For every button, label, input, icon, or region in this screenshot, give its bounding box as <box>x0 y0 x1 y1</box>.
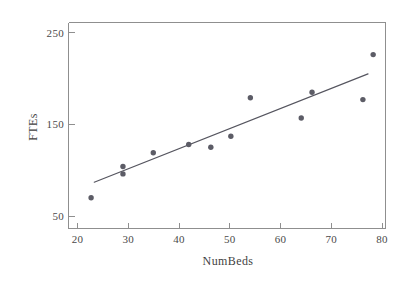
x-tick-label-20: 20 <box>72 233 84 245</box>
data-point <box>228 134 233 139</box>
data-point <box>370 52 375 57</box>
data-point <box>248 95 253 100</box>
data-point <box>208 145 213 150</box>
y-axis-ticks <box>69 33 75 216</box>
data-point <box>120 171 125 176</box>
x-tick-label-50: 50 <box>224 233 236 245</box>
x-tick-label-70: 70 <box>325 233 337 245</box>
y-axis-label: FTEs <box>26 113 41 141</box>
x-tick-label-60: 60 <box>275 233 287 245</box>
y-tick-label-50: 50 <box>42 210 64 222</box>
data-point <box>88 195 93 200</box>
axis-frame <box>69 23 386 229</box>
x-tick-label-80: 80 <box>376 233 388 245</box>
x-axis-ticks <box>78 223 383 229</box>
fit-line <box>94 74 368 182</box>
plot-canvas <box>0 0 412 288</box>
x-axis-label: NumBeds <box>203 254 254 269</box>
scatter-plot-figure: 250 150 50 20 30 40 50 60 70 80 NumBeds … <box>0 0 412 288</box>
data-point <box>360 97 365 102</box>
scatter-markers <box>88 52 375 201</box>
y-tick-label-250: 250 <box>42 27 64 39</box>
data-point <box>151 150 156 155</box>
data-point <box>186 142 191 147</box>
x-tick-label-30: 30 <box>122 233 134 245</box>
data-point <box>299 115 304 120</box>
y-tick-label-150: 150 <box>42 118 64 130</box>
data-point <box>309 90 314 95</box>
data-point <box>120 164 125 169</box>
x-tick-label-40: 40 <box>173 233 185 245</box>
